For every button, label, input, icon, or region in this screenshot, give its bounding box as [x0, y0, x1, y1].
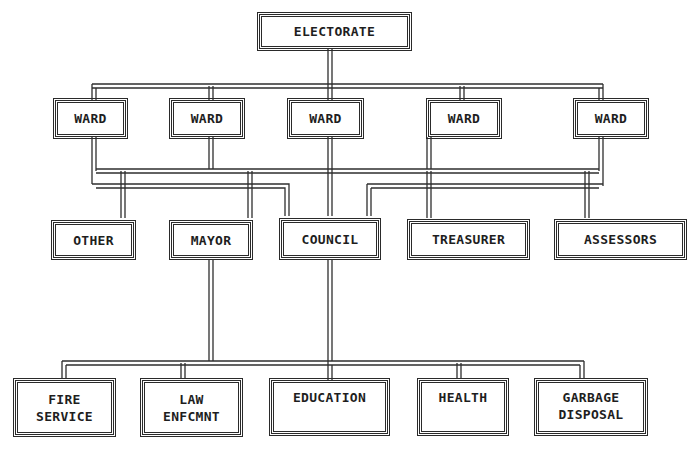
node-label: WARD: [191, 110, 224, 127]
node-ward-3: WARD: [289, 100, 362, 137]
node-health: HEALTH: [419, 380, 507, 434]
node-label-line-1: LAW: [179, 391, 203, 408]
node-mayor: MAYOR: [171, 222, 251, 258]
node-label: WARD: [448, 110, 481, 127]
node-label: COUNCIL: [302, 231, 359, 248]
node-label: WARD: [309, 110, 342, 127]
node-label-line-1: GARBAGE: [563, 389, 620, 406]
node-label: WARD: [595, 110, 628, 127]
node-label-line-2: SERVICE: [36, 408, 93, 425]
node-label: WARD: [74, 110, 107, 127]
node-label: TREASURER: [432, 231, 505, 248]
node-label: HEALTH: [439, 389, 488, 406]
node-treasurer: TREASURER: [409, 221, 528, 258]
org-chart: ELECTORATE WARD WARD WARD WARD WARD OTHE…: [0, 0, 698, 449]
node-label: OTHER: [73, 232, 114, 249]
node-ward-2: WARD: [171, 100, 243, 137]
node-label-line-2: ENFCMNT: [163, 408, 220, 425]
node-education: EDUCATION: [271, 380, 388, 434]
node-fire-service: FIRE SERVICE: [15, 380, 114, 435]
node-label: EDUCATION: [293, 389, 366, 406]
node-ward-1: WARD: [55, 100, 126, 137]
node-garbage-disposal: GARBAGE DISPOSAL: [536, 380, 646, 434]
node-label: MAYOR: [191, 232, 232, 249]
node-council: COUNCIL: [281, 220, 379, 258]
node-ward-5: WARD: [575, 100, 647, 137]
node-label-line-1: FIRE: [48, 391, 81, 408]
node-label: ASSESSORS: [584, 231, 657, 248]
node-assessors: ASSESSORS: [556, 221, 685, 258]
node-law-enforcement: LAW ENFCMNT: [142, 380, 241, 435]
node-label-line-2: DISPOSAL: [558, 406, 623, 423]
node-other: OTHER: [53, 222, 134, 258]
node-electorate: ELECTORATE: [259, 14, 410, 49]
node-ward-4: WARD: [428, 100, 500, 137]
node-label: ELECTORATE: [294, 23, 375, 40]
